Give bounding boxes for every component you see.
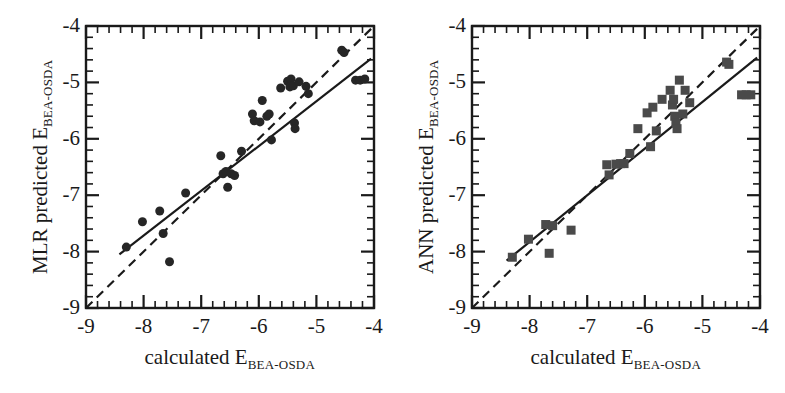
data-point	[648, 103, 657, 112]
x-tick-label: -6	[620, 316, 670, 337]
data-point	[673, 124, 682, 133]
data-point	[669, 95, 678, 104]
data-point	[678, 109, 687, 118]
y-tick-label: -7	[32, 184, 80, 205]
x-tick-label: -9	[447, 316, 497, 337]
data-point	[230, 171, 239, 180]
x-tick-label: -8	[119, 316, 169, 337]
scatter-panel-ann: ANN predicted EBEA-OSDA calculated EBEA-…	[386, 0, 779, 393]
data-point	[255, 117, 264, 126]
data-point	[304, 89, 313, 98]
data-point	[181, 188, 190, 197]
data-point	[360, 75, 369, 84]
data-point	[567, 226, 576, 235]
data-point	[545, 249, 554, 258]
data-point	[237, 147, 246, 156]
data-point	[666, 86, 675, 95]
data-point	[524, 235, 533, 244]
x-tick-label: -6	[234, 316, 284, 337]
y-tick-label: -8	[418, 241, 466, 262]
y-tick-label: -9	[32, 297, 80, 318]
data-point	[223, 183, 232, 192]
y-tick-label: -6	[32, 128, 80, 149]
y-axis-title-subscript: BEA-OSDA	[426, 60, 441, 127]
data-point	[159, 229, 168, 238]
y-tick-label: -9	[418, 297, 466, 318]
data-point	[685, 98, 694, 107]
data-point	[291, 124, 300, 133]
data-point	[652, 126, 661, 135]
y-tick-label: -5	[32, 71, 80, 92]
data-point	[267, 135, 276, 144]
y-tick-label: -7	[418, 184, 466, 205]
data-point	[165, 257, 174, 266]
data-point	[620, 159, 629, 168]
y-tick-label: -4	[32, 15, 80, 36]
data-point	[625, 149, 634, 158]
y-tick-label: -5	[418, 71, 466, 92]
data-point	[675, 76, 684, 85]
x-axis-title-text: calculated E	[145, 345, 248, 369]
regression-line	[119, 59, 371, 255]
data-point	[155, 206, 164, 215]
y-tick-label: -8	[32, 241, 80, 262]
y-tick-label: -4	[418, 15, 466, 36]
data-point	[646, 142, 655, 151]
x-tick-label: -5	[677, 316, 727, 337]
data-point	[548, 221, 557, 230]
x-tick-label: -9	[61, 316, 111, 337]
data-point	[276, 84, 285, 93]
data-point	[658, 95, 667, 104]
x-axis-title-subscript: BEA-OSDA	[248, 357, 315, 372]
data-point	[724, 60, 733, 69]
data-point	[746, 90, 755, 99]
data-point	[633, 124, 642, 133]
x-tick-label: -5	[291, 316, 341, 337]
data-point	[681, 86, 690, 95]
y-tick-label: -6	[418, 128, 466, 149]
scatter-panel-mlr: MLR predicted EBEA-OSDA calculated EBEA-…	[0, 0, 393, 393]
data-point	[602, 160, 611, 169]
data-point	[265, 109, 274, 118]
x-tick-label: -7	[562, 316, 612, 337]
data-point	[605, 170, 614, 179]
x-tick-label: -8	[505, 316, 555, 337]
data-point	[216, 151, 225, 160]
regression-line	[507, 58, 758, 261]
identity-line	[86, 26, 374, 308]
data-point	[258, 96, 267, 105]
x-axis-title-mlr: calculated EBEA-OSDA	[145, 347, 316, 368]
x-tick-label: -4	[735, 316, 785, 337]
x-axis-title-text: calculated E	[531, 345, 634, 369]
x-tick-label: -7	[176, 316, 226, 337]
y-axis-title-subscript: BEA-OSDA	[40, 60, 55, 127]
data-point	[138, 217, 147, 226]
x-axis-title-ann: calculated EBEA-OSDA	[531, 347, 702, 368]
data-point	[122, 243, 131, 252]
data-point	[508, 253, 517, 262]
data-point	[340, 48, 349, 57]
figure-container: MLR predicted EBEA-OSDA calculated EBEA-…	[0, 0, 785, 393]
x-axis-title-subscript: BEA-OSDA	[634, 357, 701, 372]
